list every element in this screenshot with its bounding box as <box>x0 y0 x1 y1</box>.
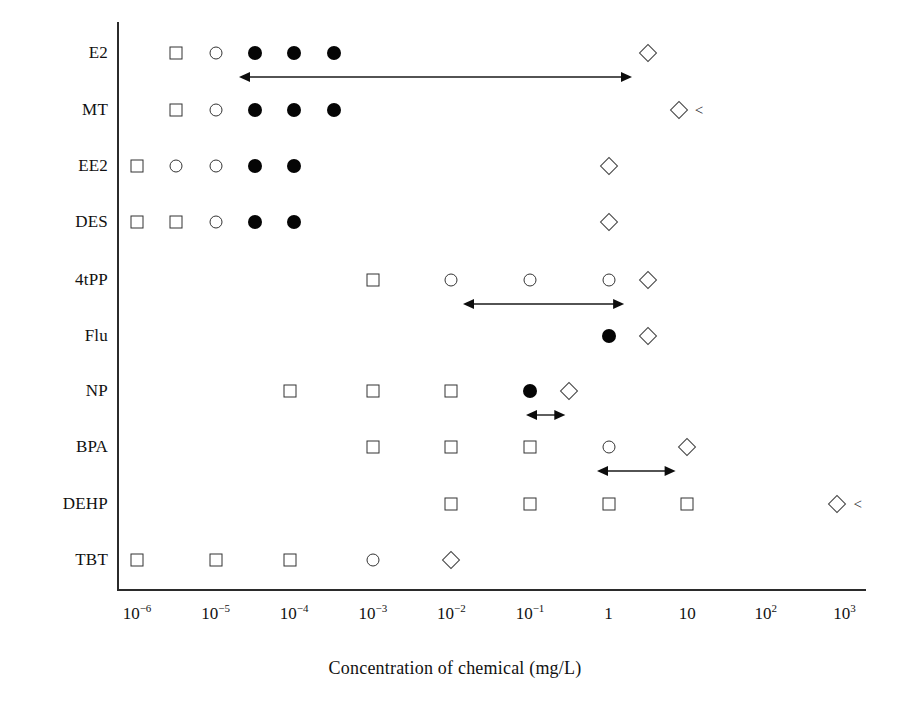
marker-open-square-mt-0 <box>170 104 183 117</box>
marker-open-square-e2-0 <box>170 47 183 60</box>
row-label-e2: E2 <box>12 44 108 61</box>
marker-open-square-4tpp-0 <box>366 274 379 287</box>
row-label-4tpp: 4tPP <box>12 271 108 288</box>
marker-open-diamond-e2-5 <box>639 44 657 62</box>
range-arrow-e2 <box>225 65 646 89</box>
less-than-annotation-dehp: < <box>854 496 862 513</box>
marker-open-circle-tbt-3 <box>366 554 379 567</box>
marker-open-square-dehp-0 <box>445 498 458 511</box>
marker-open-square-np-2 <box>445 385 458 398</box>
marker-filled-circle-ee2-3 <box>248 159 262 173</box>
marker-open-circle-4tpp-2 <box>524 274 537 287</box>
marker-open-diamond-mt-5 <box>670 101 688 119</box>
marker-open-circle-bpa-3 <box>602 441 615 454</box>
x-tick-label-3: 10−3 <box>358 604 387 623</box>
row-label-des: DES <box>12 213 108 230</box>
marker-filled-circle-des-3 <box>248 215 262 229</box>
x-axis-title: Concentration of chemical (mg/L) <box>0 658 910 679</box>
marker-open-diamond-bpa-4 <box>678 438 696 456</box>
marker-open-square-bpa-0 <box>366 441 379 454</box>
marker-filled-circle-np-3 <box>523 384 537 398</box>
marker-open-diamond-flu-1 <box>639 327 657 345</box>
marker-open-diamond-np-4 <box>560 382 578 400</box>
row-label-tbt: TBT <box>12 551 108 568</box>
marker-open-square-np-1 <box>366 385 379 398</box>
row-label-flu: Flu <box>12 327 108 344</box>
marker-open-square-tbt-1 <box>209 554 222 567</box>
x-tick-label-9: 103 <box>833 604 856 623</box>
chart-canvas: E2MTEE2DES4tPPFluNPBPADEHPTBT << 10−610−… <box>0 0 910 701</box>
marker-open-square-bpa-1 <box>445 441 458 454</box>
marker-filled-circle-mt-3 <box>287 103 301 117</box>
marker-open-square-dehp-1 <box>524 498 537 511</box>
range-arrow-np <box>512 403 579 427</box>
range-arrow-4tpp <box>449 292 638 316</box>
marker-open-circle-des-2 <box>209 216 222 229</box>
marker-filled-circle-flu-0 <box>602 329 616 343</box>
x-tick-label-6: 1 <box>604 604 613 623</box>
marker-open-square-dehp-3 <box>681 498 694 511</box>
marker-filled-circle-e2-3 <box>287 46 301 60</box>
row-label-np: NP <box>12 382 108 399</box>
marker-open-square-des-0 <box>131 216 144 229</box>
marker-open-square-dehp-2 <box>602 498 615 511</box>
marker-open-circle-ee2-1 <box>170 160 183 173</box>
marker-open-diamond-4tpp-4 <box>639 271 657 289</box>
x-tick-label-0: 10−6 <box>123 604 152 623</box>
marker-filled-circle-mt-4 <box>327 103 341 117</box>
marker-filled-circle-des-4 <box>287 215 301 229</box>
marker-filled-circle-e2-2 <box>248 46 262 60</box>
marker-open-square-des-1 <box>170 216 183 229</box>
marker-open-square-tbt-0 <box>131 554 144 567</box>
row-label-ee2: EE2 <box>12 157 108 174</box>
marker-open-circle-4tpp-1 <box>445 274 458 287</box>
x-tick-label-2: 10−4 <box>280 604 309 623</box>
range-arrow-bpa <box>583 459 690 483</box>
marker-open-diamond-des-5 <box>599 213 617 231</box>
marker-open-diamond-tbt-4 <box>442 551 460 569</box>
marker-open-circle-mt-1 <box>209 104 222 117</box>
marker-filled-circle-e2-4 <box>327 46 341 60</box>
y-axis-line <box>117 22 119 590</box>
marker-filled-circle-ee2-4 <box>287 159 301 173</box>
marker-open-square-ee2-0 <box>131 160 144 173</box>
x-tick-label-4: 10−2 <box>437 604 466 623</box>
marker-open-diamond-dehp-4 <box>827 495 845 513</box>
row-label-mt: MT <box>12 101 108 118</box>
x-tick-label-1: 10−5 <box>201 604 230 623</box>
less-than-annotation-mt: < <box>695 102 703 119</box>
x-axis-line <box>117 589 866 591</box>
marker-open-square-tbt-2 <box>284 554 297 567</box>
x-tick-label-5: 10−1 <box>516 604 545 623</box>
x-tick-label-7: 10 <box>679 604 696 623</box>
row-label-dehp: DEHP <box>12 495 108 512</box>
marker-open-diamond-ee2-5 <box>599 157 617 175</box>
marker-open-square-np-0 <box>284 385 297 398</box>
marker-open-circle-e2-1 <box>209 47 222 60</box>
marker-open-circle-4tpp-3 <box>602 274 615 287</box>
marker-filled-circle-mt-2 <box>248 103 262 117</box>
x-tick-label-8: 102 <box>755 604 778 623</box>
marker-open-circle-ee2-2 <box>209 160 222 173</box>
marker-open-square-bpa-2 <box>524 441 537 454</box>
row-label-bpa: BPA <box>12 438 108 455</box>
